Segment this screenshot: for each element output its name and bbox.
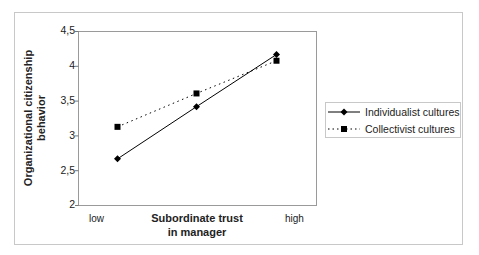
x-tick-low: low <box>89 213 104 224</box>
y-tick-label: 4,5 <box>60 24 75 36</box>
y-tick-label: 3,5 <box>60 94 75 106</box>
y-tick-label: 3 <box>69 129 75 141</box>
x-axis-label-line1: Subordinate trust <box>147 211 247 225</box>
square-marker <box>274 58 280 64</box>
plot-area <box>79 32 317 206</box>
square-marker <box>194 90 200 96</box>
y-axis-ticks <box>75 32 79 206</box>
square-marker <box>115 124 121 130</box>
dotted-square-line-icon <box>326 124 362 134</box>
legend-item-individualist: Individualist cultures <box>326 104 460 120</box>
solid-diamond-line-icon <box>326 107 362 117</box>
legend-label: Individualist cultures <box>365 106 460 118</box>
y-tick-label: 2,5 <box>60 164 75 176</box>
legend-label: Collectivist cultures <box>365 123 455 135</box>
x-axis-label-line2: in manager <box>147 225 247 239</box>
legend-item-collectivist: Collectivist cultures <box>326 121 460 137</box>
legend: Individualist cultures Collectivist cult… <box>325 102 461 138</box>
y-axis-label-line2: behavior <box>35 33 48 203</box>
y-axis-label-line1: Organizational citizenship <box>22 33 35 203</box>
y-tick-label: 2 <box>69 198 75 210</box>
y-tick-label: 4 <box>69 59 75 71</box>
x-axis-label: Subordinate trust in manager <box>147 211 247 239</box>
x-tick-high: high <box>285 213 304 224</box>
